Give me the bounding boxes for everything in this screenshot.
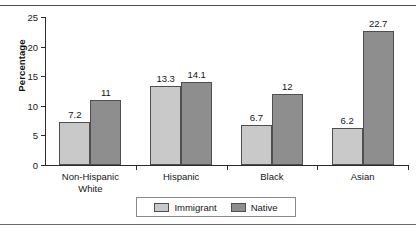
bar-native-0 — [90, 100, 121, 165]
y-axis-tick-label: 20 — [12, 41, 38, 52]
bottom-divider-rule — [0, 224, 416, 225]
y-axis-tick-label: 10 — [12, 100, 38, 111]
x-axis-tick — [136, 165, 137, 170]
x-axis-tick — [227, 165, 228, 170]
y-axis-tick-label: 15 — [12, 71, 38, 82]
bar-value-label: 22.7 — [369, 18, 388, 29]
x-axis-tick — [408, 165, 409, 170]
legend-swatch-immigrant-icon — [154, 203, 169, 212]
bar-value-label: 7.2 — [68, 109, 81, 120]
category-label: Hispanic — [163, 171, 199, 183]
y-axis-tick-label: 25 — [12, 12, 38, 23]
y-axis-tick — [41, 135, 46, 136]
y-axis-tick — [41, 76, 46, 77]
category-label: Black — [260, 171, 283, 183]
bar-immigrant-1 — [150, 86, 181, 165]
y-axis-tick-label: 5 — [12, 130, 38, 141]
category-label: Non-HispanicWhite — [62, 171, 119, 195]
category-label-line: Hispanic — [163, 171, 199, 183]
category-label-line: Non-Hispanic — [62, 171, 119, 183]
bar-immigrant-3 — [332, 128, 363, 165]
bar-chart-figure: Percentage 0510152025 7.21113.314.16.712… — [0, 0, 416, 234]
bar-native-1 — [181, 82, 212, 165]
bar-value-label: 14.1 — [187, 69, 206, 80]
category-label: Asian — [351, 171, 375, 183]
top-divider-rule — [0, 5, 416, 6]
bar-value-label: 12 — [282, 81, 293, 92]
x-axis-tick — [317, 165, 318, 170]
y-axis-tick — [41, 17, 46, 18]
legend-label-native: Native — [251, 202, 278, 213]
chart-legend: Immigrant Native — [136, 197, 296, 217]
legend-item-immigrant: Immigrant — [154, 202, 216, 213]
y-axis-tick-label: 0 — [12, 160, 38, 171]
y-axis-tick — [41, 165, 46, 166]
category-label-line: Black — [260, 171, 283, 183]
y-axis-title: Percentage — [16, 21, 27, 111]
y-axis-tick — [41, 47, 46, 48]
bar-immigrant-0 — [59, 122, 90, 165]
bar-value-label: 6.2 — [341, 115, 354, 126]
category-label-line: Asian — [351, 171, 375, 183]
bar-native-3 — [363, 31, 394, 165]
bar-value-label: 6.7 — [250, 112, 263, 123]
bar-value-label: 13.3 — [156, 73, 175, 84]
bar-native-2 — [272, 94, 303, 165]
legend-swatch-native-icon — [231, 203, 246, 212]
y-axis-line — [45, 17, 46, 166]
bar-value-label: 11 — [101, 87, 111, 98]
legend-item-native: Native — [231, 202, 278, 213]
y-axis-tick — [41, 106, 46, 107]
bar-immigrant-2 — [241, 125, 272, 165]
legend-label-immigrant: Immigrant — [174, 202, 216, 213]
category-label-line: White — [62, 183, 119, 195]
